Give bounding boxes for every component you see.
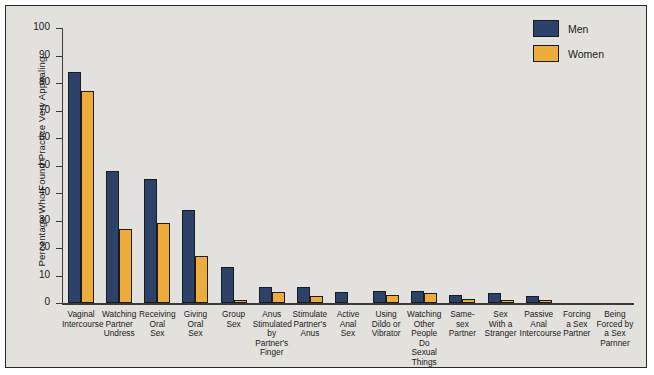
bar-men — [526, 296, 539, 303]
bar-group — [176, 210, 214, 304]
y-tick-label: 70 — [20, 104, 50, 115]
bar-men — [182, 210, 195, 304]
y-tick-label: 30 — [20, 214, 50, 225]
x-axis-label-line: People Do — [405, 329, 443, 348]
bar-group — [329, 292, 367, 303]
y-tick-label: 80 — [20, 76, 50, 87]
y-tick-label: 90 — [20, 49, 50, 60]
bar-group — [253, 287, 291, 304]
x-axis-label: BeingForced bya SexParnner — [596, 310, 634, 348]
bar-women — [119, 229, 132, 303]
x-axis-label-line: by Partner's — [253, 329, 291, 348]
x-axis-label: ActiveAnalSex — [329, 310, 367, 339]
y-tick-label: 10 — [20, 269, 50, 280]
bar-men — [106, 171, 119, 303]
bar-group — [291, 287, 329, 304]
x-axis-label-line: Intercourse — [62, 320, 100, 330]
y-tick-label: 0 — [20, 296, 50, 307]
x-axis-label-line: Partner — [443, 329, 481, 339]
x-axis-label-line: Partner — [558, 329, 596, 339]
bar-men — [68, 72, 81, 303]
bar-women — [234, 300, 247, 303]
bar-men — [488, 293, 501, 303]
x-axis-label: SexWith aStranger — [481, 310, 519, 339]
bar-women — [81, 91, 94, 303]
bar-group — [215, 267, 253, 303]
y-tick-label: 60 — [20, 131, 50, 142]
bar-men — [449, 295, 462, 303]
x-axis-label-line: Anus — [291, 329, 329, 339]
x-axis-line — [62, 303, 634, 305]
bar-group — [367, 291, 405, 303]
x-axis-label: PassiveAnalIntercourse — [520, 310, 558, 339]
bar-women — [462, 299, 475, 303]
x-axis-label: Forcinga SexPartner — [558, 310, 596, 339]
x-axis-label-line: Undress — [100, 329, 138, 339]
x-axis-label: GroupSex — [215, 310, 253, 329]
y-tick — [56, 56, 62, 57]
bar-women — [157, 223, 170, 303]
bar-men — [373, 291, 386, 303]
x-axis-label-line: Intercourse — [520, 329, 558, 339]
bar-women — [539, 300, 552, 303]
x-axis-label: AnusStimulatedby Partner'sFinger — [253, 310, 291, 358]
x-axis-label-line: Finger — [253, 348, 291, 358]
x-axis-label-line: Vibrator — [367, 329, 405, 339]
bar-group — [62, 72, 100, 303]
y-tick-label: 40 — [20, 186, 50, 197]
x-axis-label-line: Sex — [215, 320, 253, 330]
bar-group — [405, 291, 443, 303]
x-axis-label-line: Sex — [138, 329, 176, 339]
bar-group — [100, 171, 138, 303]
bar-women — [195, 256, 208, 303]
x-axis-label: Same-sexPartner — [443, 310, 481, 339]
x-axis-label: WatchingPartnerUndress — [100, 310, 138, 339]
x-axis-label: StimulatePartner'sAnus — [291, 310, 329, 339]
bar-group — [443, 295, 481, 303]
bar-women — [501, 300, 514, 303]
y-tick-label: 50 — [20, 159, 50, 170]
y-tick-label: 20 — [20, 241, 50, 252]
bar-men — [144, 179, 157, 303]
x-axis-label: WatchingOtherPeople DoSexualThings — [405, 310, 443, 368]
chart-figure: Men Women Percentage Who Found Practice … — [5, 5, 647, 368]
y-tick — [56, 28, 62, 29]
bar-men — [259, 287, 272, 304]
x-axis-label: UsingDildo orVibrator — [367, 310, 405, 339]
x-axis-label: ReceivingOralSex — [138, 310, 176, 339]
bar-women — [310, 296, 323, 303]
bar-men — [297, 287, 310, 304]
x-axis-label-line: Stranger — [481, 329, 519, 339]
y-tick — [56, 303, 62, 304]
bar-women — [424, 293, 437, 303]
x-axis-label: GivingOralSex — [176, 310, 214, 339]
bar-men — [335, 292, 348, 303]
x-axis-label-line: Parnner — [596, 339, 634, 349]
x-axis-label-line: Things — [405, 358, 443, 368]
bar-women — [386, 295, 399, 303]
bar-group — [520, 296, 558, 303]
bar-group — [481, 293, 519, 303]
x-axis-label-line: Sex — [329, 329, 367, 339]
bar-group — [138, 179, 176, 303]
bar-men — [411, 291, 424, 303]
x-axis-label-line: Sex — [176, 329, 214, 339]
bar-men — [221, 267, 234, 303]
plot-area: 0102030405060708090100 VaginalIntercours… — [62, 28, 634, 303]
x-axis-label: VaginalIntercourse — [62, 310, 100, 329]
y-tick-label: 100 — [20, 21, 50, 32]
bar-women — [272, 292, 285, 303]
